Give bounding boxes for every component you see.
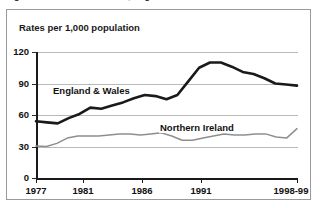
series-label-northern-ireland: Northern Ireland <box>159 122 235 133</box>
series-label-england-wales: England & Wales <box>52 85 131 96</box>
figure-title: Figure: recorded crime rates, England & … <box>6 0 297 1</box>
data-lines <box>7 10 312 201</box>
plot-area: 120 90 60 30 0 1977 1981 1986 1991 1998-… <box>7 10 312 201</box>
cut-off-title-strip: Figure: recorded crime rates, England & … <box>0 0 320 9</box>
chart-frame: Rates per 1,000 population 120 90 60 30 … <box>6 9 311 200</box>
